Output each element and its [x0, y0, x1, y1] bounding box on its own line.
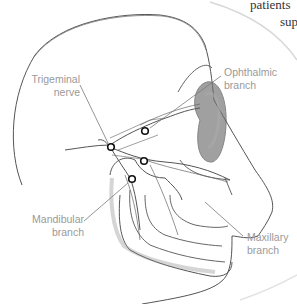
label-line: Trigeminal — [22, 73, 80, 86]
label-line: branch — [224, 79, 277, 92]
label-line: Maxillary — [247, 231, 288, 244]
trigeminal-node-marker — [108, 144, 115, 151]
ophthalmic-branch-label: Ophthalmic branch — [224, 66, 277, 92]
trigeminal-leader-line — [80, 85, 108, 143]
mandible-contours — [130, 190, 228, 262]
maxillary-leader-line — [205, 202, 243, 236]
label-line: branch — [20, 226, 84, 239]
page-curl-arc — [210, 2, 297, 60]
maxillary-node-marker — [141, 158, 148, 165]
nerve-fibers — [110, 118, 165, 160]
head-illustration — [0, 0, 297, 304]
mandibular-node-marker — [129, 176, 136, 183]
page-curl-arc-bottom — [240, 275, 297, 300]
skull-outline-inner — [34, 15, 206, 57]
label-line: nerve — [22, 86, 80, 99]
trigeminal-nerve-label: Trigeminal nerve — [22, 73, 80, 99]
label-line: branch — [247, 244, 288, 257]
trigeminal-diagram: patients sup Trigemin — [0, 0, 297, 304]
label-line: Ophthalmic — [224, 66, 277, 79]
ophthalmic-nerve-path — [65, 108, 200, 150]
label-line: Mandibular — [20, 213, 84, 226]
ophthalmic-node-marker — [142, 128, 149, 135]
mandibular-leader-line — [84, 183, 128, 221]
mandibular-branch-label: Mandibular branch — [20, 213, 84, 239]
maxillary-branch-label: Maxillary branch — [247, 231, 288, 257]
mandible-shading — [111, 178, 215, 272]
